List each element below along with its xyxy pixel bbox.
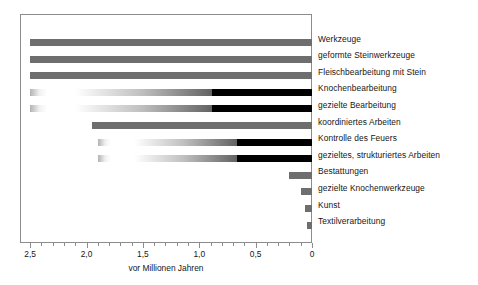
bar-uncertainty-fragment <box>30 105 47 112</box>
x-axis-tick-major <box>312 243 313 248</box>
chart-figure: Werkzeugegeformte SteinwerkzeugeFleischb… <box>0 0 478 285</box>
x-axis-tick-minor <box>41 243 42 246</box>
category-label: gezielte Knochenwerkzeuge <box>318 183 425 193</box>
x-axis-tick-major <box>30 243 31 248</box>
x-axis-tick-minor <box>233 243 234 246</box>
bar <box>75 105 312 112</box>
x-axis-tick-minor <box>301 243 302 246</box>
x-axis-tick-minor <box>154 243 155 246</box>
bar-row <box>20 216 312 235</box>
category-label: koordiniertes Arbeiten <box>318 117 401 127</box>
bar <box>134 139 312 146</box>
bar <box>307 222 312 229</box>
x-axis-tick-label: 2,0 <box>81 249 93 259</box>
x-axis-tick-minor <box>222 243 223 246</box>
category-label: gezielte Bearbeitung <box>318 100 396 110</box>
x-axis-tick-label: 1,0 <box>193 249 205 259</box>
category-label: Werkzeuge <box>318 34 361 44</box>
x-axis-tick-minor <box>188 243 189 246</box>
bar <box>75 89 312 96</box>
category-labels: Werkzeugegeformte SteinwerkzeugeFleischb… <box>318 14 478 243</box>
bar <box>305 205 312 212</box>
bar-uncertainty-fragment <box>30 89 47 96</box>
bar <box>289 172 312 179</box>
bar <box>30 39 312 46</box>
x-axis-tick-minor <box>278 243 279 246</box>
category-label: geformte Steinwerkzeuge <box>318 50 415 60</box>
x-axis-tick-minor <box>267 243 268 246</box>
x-axis-tick-minor <box>244 243 245 246</box>
x-axis-tick-label: 0,5 <box>250 249 262 259</box>
x-axis-tick-minor <box>120 243 121 246</box>
category-label: Kunst <box>318 200 340 210</box>
category-label: Bestattungen <box>318 166 368 176</box>
category-label: Kontrolle des Feuers <box>318 133 397 143</box>
x-axis-tick-minor <box>64 243 65 246</box>
category-label: gezieltes, strukturiertes Arbeiten <box>318 150 440 160</box>
x-axis-tick-label: 0 <box>310 249 315 259</box>
x-axis-tick-minor <box>165 243 166 246</box>
bar <box>30 56 312 63</box>
x-axis-tick-minor <box>211 243 212 246</box>
x-axis-tick-major <box>256 243 257 248</box>
x-axis-tick-minor <box>98 243 99 246</box>
x-axis-tick-label: 2,5 <box>24 249 36 259</box>
category-label: Knochenbearbeitung <box>318 83 397 93</box>
bars-layer <box>20 14 312 243</box>
bar-uncertainty-fragment <box>98 139 112 146</box>
bar <box>92 122 312 129</box>
x-axis-tick-minor <box>132 243 133 246</box>
x-axis-tick-label: 1,5 <box>137 249 149 259</box>
bar-uncertainty-fragment <box>98 155 112 162</box>
bar <box>301 188 312 195</box>
category-label: Textilverarbeitung <box>318 216 385 226</box>
x-axis: vor Millionen Jahren 2,52,01,51,00,50 <box>20 243 312 285</box>
x-axis-tick-minor <box>109 243 110 246</box>
category-label: Fleischbearbeitung mit Stein <box>318 67 426 77</box>
x-axis-tick-major <box>143 243 144 248</box>
x-axis-tick-minor <box>75 243 76 246</box>
x-axis-tick-minor <box>53 243 54 246</box>
x-axis-tick-minor <box>177 243 178 246</box>
x-axis-tick-minor <box>289 243 290 246</box>
x-axis-tick-major <box>199 243 200 248</box>
x-axis-title: vor Millionen Jahren <box>129 263 204 273</box>
bar <box>30 72 312 79</box>
x-axis-tick-major <box>87 243 88 248</box>
bar <box>134 155 312 162</box>
